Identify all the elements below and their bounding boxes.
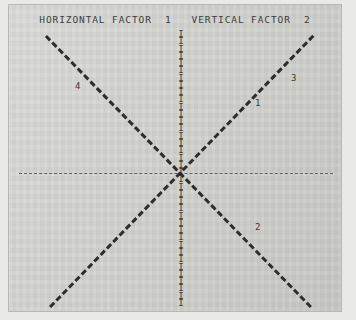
page-title: HORIZONTAL FACTOR 1 VERTICAL FACTOR 2: [9, 14, 341, 25]
screenshot-root: HORIZONTAL FACTOR 1 VERTICAL FACTOR 2 II…: [0, 0, 356, 320]
series-label-1: 1: [255, 98, 260, 108]
vertical-axis-glyph: I: [178, 300, 183, 307]
series-label-2: 2: [255, 222, 260, 232]
series-label-3: 3: [291, 73, 296, 83]
plot-area: HORIZONTAL FACTOR 1 VERTICAL FACTOR 2 II…: [9, 5, 341, 311]
series-label-4: 4: [75, 81, 80, 91]
scanned-plot-plate: HORIZONTAL FACTOR 1 VERTICAL FACTOR 2 II…: [8, 4, 342, 312]
